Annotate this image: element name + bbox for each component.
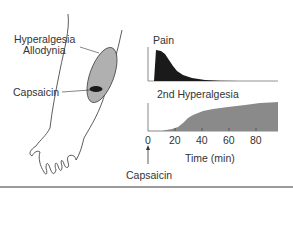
label-capsaicin-arm: Capsaicin	[13, 86, 59, 98]
tick-20: 20	[169, 134, 181, 146]
hyperalgesia-area	[162, 102, 278, 131]
tick-0: 0	[145, 134, 151, 146]
tick-40: 40	[196, 134, 208, 146]
tick-80: 80	[250, 134, 262, 146]
capsaicin-arrow	[146, 145, 150, 164]
leader-capsaicin	[62, 90, 90, 92]
label-allodynia: Allodynia	[23, 44, 66, 56]
hyperalgesia-chart-title: 2nd Hyperalgesia	[157, 88, 239, 100]
hyperalgesia-chart	[148, 102, 278, 131]
capsaicin-spot	[90, 86, 103, 92]
tick-60: 60	[223, 134, 235, 146]
pain-area	[154, 50, 240, 81]
pain-chart	[148, 47, 278, 81]
pain-chart-title: Pain	[153, 34, 174, 46]
capsaicin-arrow-label: Capsaicin	[126, 169, 172, 181]
leader-allodynia	[80, 47, 99, 53]
bottom-rule	[0, 186, 293, 188]
x-axis-label: Time (min)	[185, 152, 235, 164]
